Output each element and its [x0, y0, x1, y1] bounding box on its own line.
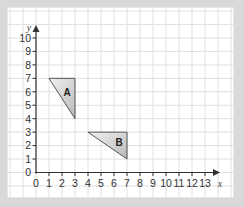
y-tick-label: 7: [25, 72, 31, 84]
x-tick-label: 5: [98, 177, 104, 189]
x-tick-label: 4: [85, 177, 91, 189]
x-tick-label: 12: [186, 177, 198, 189]
x-tick-label: 11: [174, 177, 185, 189]
x-tick-label: 7: [124, 177, 130, 189]
x-tick-label: 1: [46, 177, 52, 189]
x-tick-label: 0: [33, 177, 39, 189]
y-tick-label: 1: [25, 153, 31, 165]
y-tick-label: 3: [25, 126, 31, 138]
y-tick-label: 2: [25, 139, 31, 151]
y-tick-label: 9: [25, 45, 31, 57]
y-tick-label: 6: [25, 86, 31, 98]
y-tick-label: 5: [25, 99, 31, 111]
y-tick-label: 4: [25, 113, 31, 125]
x-axis-label: x: [217, 178, 223, 189]
x-tick-label: 2: [59, 177, 65, 189]
y-tick-label: 8: [25, 59, 31, 71]
x-tick-label: 13: [199, 177, 211, 189]
grid-lines: [8, 8, 233, 197]
y-tick-label: 0: [25, 166, 31, 178]
x-tick-label: 3: [72, 177, 78, 189]
triangle-a-label: A: [63, 87, 70, 98]
x-tick-label: 8: [137, 177, 143, 189]
x-tick-label: 9: [150, 177, 156, 189]
x-tick-label: 6: [111, 177, 117, 189]
coordinate-grid: AB 012345678910111213012345678910xy: [0, 0, 244, 207]
x-axis-arrow-icon: [213, 169, 220, 176]
triangle-b-label: B: [115, 137, 122, 148]
y-axis-label: y: [26, 22, 32, 33]
y-axis-arrow-icon: [33, 25, 40, 32]
x-tick-label: 10: [160, 177, 172, 189]
y-tick-label: 10: [19, 32, 31, 44]
